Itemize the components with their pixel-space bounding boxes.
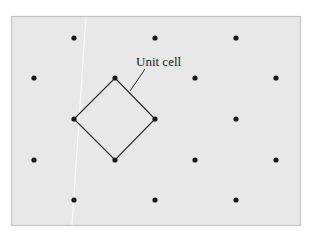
lattice-point [192,75,197,80]
lattice-point [112,75,117,80]
lattice-point [152,116,157,121]
lattice-point [273,157,278,162]
lattice-point [71,197,76,202]
lattice-point [233,197,238,202]
lattice-point [233,116,238,121]
lattice-point [192,157,197,162]
lattice-point [112,157,117,162]
lattice-point [152,197,157,202]
unit-cell-label: Unit cell [136,54,182,69]
lattice-point [31,75,36,80]
lattice-point [71,116,76,121]
lattice-point [71,35,76,40]
lattice-point [273,75,278,80]
lattice-point [31,157,36,162]
lattice-diagram: Unit cell [0,0,310,237]
lattice-point [233,35,238,40]
lattice-point [152,35,157,40]
